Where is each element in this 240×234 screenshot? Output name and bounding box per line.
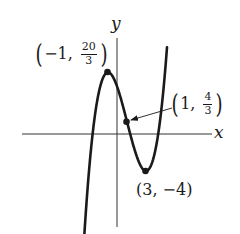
- local-minimum-point: [142, 168, 149, 175]
- inflection-point-dot: [123, 118, 130, 125]
- inflection-y-numerator: 4: [203, 91, 212, 104]
- max-y-fraction: 20 3: [81, 41, 97, 66]
- local-maximum-point: [104, 69, 111, 76]
- local-minimum-label: (3, −4): [136, 182, 192, 198]
- inflection-y-fraction: 4 3: [203, 91, 212, 116]
- inflection-point-label: ( 1, 4 3 ): [170, 91, 225, 117]
- local-maximum-label: ( −1, 20 3 ): [34, 41, 109, 67]
- max-y-denominator: 3: [85, 55, 92, 67]
- max-y-numerator: 20: [81, 41, 97, 54]
- max-x-text: −1,: [44, 46, 73, 62]
- arrow-icon: [131, 108, 172, 120]
- inflection-y-denominator: 3: [204, 105, 211, 117]
- close-paren: ): [216, 91, 223, 117]
- cubic-graph: [0, 0, 240, 234]
- y-axis-label: y: [111, 15, 121, 32]
- cubic-curve: [84, 47, 167, 234]
- close-paren: ): [100, 41, 107, 67]
- x-axis-label: x: [214, 124, 224, 141]
- open-paren: (: [36, 41, 43, 67]
- inflection-x-text: 1,: [180, 96, 195, 112]
- open-paren: (: [172, 91, 179, 117]
